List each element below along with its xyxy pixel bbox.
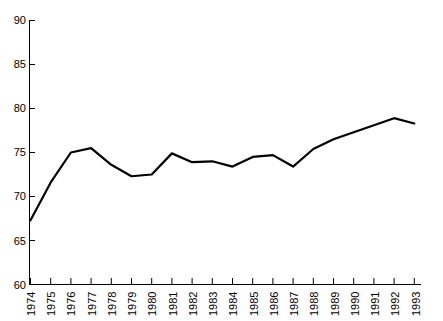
x-axis-ticks <box>31 278 415 285</box>
plot-area <box>0 0 443 321</box>
line-chart: 90 85 80 75 70 65 60 1974 1975 1976 1977… <box>0 0 443 321</box>
data-line-series-1 <box>31 118 415 220</box>
y-axis-ticks <box>30 21 36 285</box>
